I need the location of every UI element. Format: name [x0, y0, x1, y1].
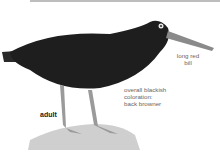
coloration-line2: coloration:	[124, 93, 166, 100]
coloration-line3: back browner	[124, 100, 166, 107]
coloration-line1: overall blackish	[124, 86, 166, 93]
bill-label-line1: long red	[170, 52, 206, 59]
bird-illustration	[0, 0, 220, 155]
coloration-label: overall blackish coloration: back browne…	[124, 86, 166, 107]
bill-label-line2: bill	[170, 59, 206, 66]
bill	[166, 31, 214, 51]
rock	[28, 124, 140, 150]
adult-label: adult	[40, 111, 57, 118]
body	[10, 21, 169, 89]
bill-label: long red bill	[170, 52, 206, 66]
